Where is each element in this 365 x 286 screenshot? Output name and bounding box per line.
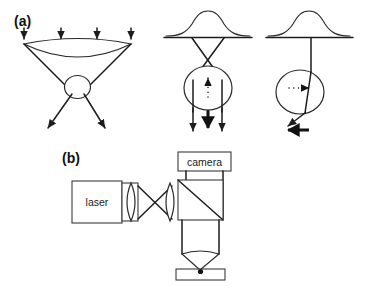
figure-root: (a) (0, 0, 365, 286)
gaussian-profile-a2 (166, 11, 250, 36)
panel-b-group: (b) laser camera (62, 150, 231, 280)
trapped-bead-a1 (65, 76, 91, 99)
diagram-a2-group (164, 11, 252, 131)
trapped-bead-in-chamber (198, 269, 203, 274)
diagram-a1-group (24, 28, 131, 128)
incoming-rays-a1 (24, 28, 131, 39)
diverging-arrow-right (84, 94, 105, 128)
diagram-a3-group (266, 11, 353, 130)
optical-tweezers-figure: (a) (0, 0, 365, 286)
objective-front-lens (182, 251, 219, 270)
panel-a-label: (a) (14, 13, 31, 29)
diverging-arrow-left (48, 94, 72, 128)
laser-label: laser (86, 196, 109, 208)
camera-label: camera (187, 156, 222, 168)
panel-b-label: (b) (62, 150, 80, 166)
converging-lens-a1 (24, 39, 131, 58)
panel-a-group: (a) (14, 11, 353, 131)
gaussian-profile-a3 (268, 11, 350, 36)
exit-ray-arrow-a3 (288, 113, 305, 126)
trapped-bead-a3 (276, 70, 324, 114)
